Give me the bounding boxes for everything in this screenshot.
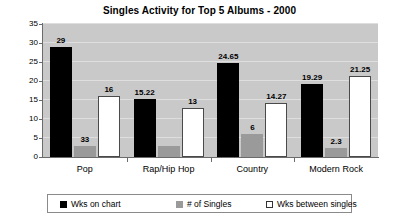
chart-legend: Wks on chart# of SinglesWks between sing… (47, 194, 352, 213)
bar-chart: Singles Activity for Top 5 Albums - 2000… (0, 0, 399, 221)
y-tick-label: 5 (18, 134, 38, 142)
bar-value-label: 33 (68, 135, 102, 144)
bar-value-label: 19.29 (295, 73, 329, 82)
bar-value-label: 15.22 (128, 88, 162, 97)
y-tick-label: 35 (18, 20, 38, 28)
y-tick-value: 30 (18, 39, 38, 47)
y-tick-value: 25 (18, 58, 38, 66)
bar-group: 15.2213 (127, 24, 211, 157)
y-tick-mark (39, 138, 42, 139)
bar[interactable] (241, 134, 263, 157)
bar-value-label: 24.65 (211, 52, 245, 61)
y-tick-label: 30 (18, 39, 38, 47)
legend-swatch-icon (176, 201, 183, 208)
legend-label: Wks on chart (71, 199, 121, 209)
bar[interactable] (325, 148, 347, 157)
y-tick-mark (39, 62, 42, 63)
y-tick-mark (39, 43, 42, 44)
x-category-label: Modern Rock (294, 164, 378, 174)
x-tick-mark (211, 157, 212, 162)
y-tick-label: 15 (18, 96, 38, 104)
bar[interactable] (74, 146, 96, 157)
bar-value-label: 29 (44, 36, 78, 45)
legend-swatch-icon (266, 201, 273, 208)
y-tick-label: 20 (18, 77, 38, 85)
y-tick-mark (39, 24, 42, 25)
bar-value-label: 13 (176, 97, 210, 106)
y-tick-mark (39, 100, 42, 101)
y-tick-label: 0 (18, 153, 38, 161)
bar[interactable] (349, 76, 371, 157)
bar-value-label: 6 (235, 123, 269, 132)
legend-label: Wks between singles (277, 199, 357, 209)
bar[interactable] (158, 146, 180, 157)
y-tick-value: 15 (18, 96, 38, 104)
y-tick-label: 10 (18, 115, 38, 123)
bar[interactable] (134, 99, 156, 157)
bar-value-label: 16 (92, 85, 126, 94)
y-tick-value: 5 (18, 134, 38, 142)
bar-group: 24.65614.27 (211, 24, 295, 157)
x-tick-mark (294, 157, 295, 162)
legend-item[interactable]: # of Singles (176, 199, 231, 209)
y-tick-value: 20 (18, 77, 38, 85)
legend-item[interactable]: Wks between singles (266, 199, 357, 209)
bar-group: 19.292.321.25 (294, 24, 378, 157)
legend-label: # of Singles (187, 199, 231, 209)
x-category-label: Country (211, 164, 295, 174)
legend-swatch-icon (60, 201, 67, 208)
x-tick-mark (127, 157, 128, 162)
legend-item[interactable]: Wks on chart (60, 199, 121, 209)
y-tick-label: 25 (18, 58, 38, 66)
y-tick-value: 0 (18, 153, 38, 161)
bar-value-label: 14.27 (259, 92, 293, 101)
bar[interactable] (98, 96, 120, 157)
x-category-label: Pop (43, 164, 127, 174)
bar-value-label: 2.3 (319, 137, 353, 146)
y-tick-mark (39, 119, 42, 120)
bar-value-label: 21.25 (343, 65, 377, 74)
y-tick-mark (39, 157, 42, 158)
y-tick-value: 10 (18, 115, 38, 123)
bar-group: 293316 (43, 24, 127, 157)
bar[interactable] (182, 108, 204, 157)
bar[interactable] (217, 63, 239, 157)
y-tick-mark (39, 81, 42, 82)
x-category-label: Rap/Hip Hop (127, 164, 211, 174)
chart-title: Singles Activity for Top 5 Albums - 2000 (0, 5, 399, 16)
y-tick-value: 35 (18, 20, 38, 28)
bar[interactable] (265, 103, 287, 157)
